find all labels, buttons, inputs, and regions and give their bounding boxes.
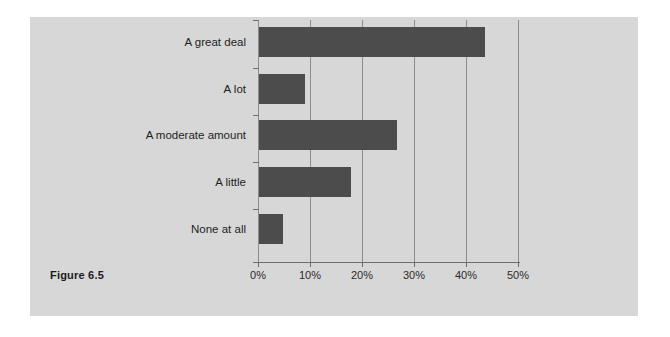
x-tick-label-0: 0%: [250, 269, 266, 281]
bar-a-lot: [259, 74, 305, 104]
screenshot-root: 0% 10% 20% 30% 40% 50% A great deal A lo…: [0, 0, 670, 337]
category-label-text: A moderate amount: [146, 129, 246, 141]
category-label-text: None at all: [191, 223, 246, 235]
x-tick-mark-40: [466, 262, 467, 267]
gridline-50: [518, 20, 519, 262]
x-tick-label-50: 50%: [507, 269, 529, 281]
x-tick-mark-10: [310, 262, 311, 267]
figure-panel: 0% 10% 20% 30% 40% 50% A great deal A lo…: [30, 17, 638, 316]
y-tick-2: [253, 115, 259, 116]
category-label-text: A lot: [224, 83, 246, 95]
bar-a-little: [259, 167, 351, 197]
y-tick-1: [253, 68, 259, 69]
x-tick-mark-50: [518, 262, 519, 267]
x-tick-mark-20: [362, 262, 363, 267]
x-tick-label-40: 40%: [455, 269, 477, 281]
bar-chart: 0% 10% 20% 30% 40% 50% A great deal A lo…: [30, 17, 638, 277]
bar-none-at-all: [259, 214, 283, 244]
category-label-text: A great deal: [185, 36, 246, 48]
plot-area: [258, 20, 518, 262]
x-tick-mark-0: [258, 262, 259, 267]
category-label-none-at-all: None at all: [40, 214, 252, 244]
y-tick-4: [253, 209, 259, 210]
x-tick-label-20: 20%: [351, 269, 373, 281]
x-tick-label-10: 10%: [299, 269, 321, 281]
x-axis-line: [258, 262, 520, 263]
category-label-a-little: A little: [40, 167, 252, 197]
category-label-text: A little: [215, 176, 246, 188]
x-tick-mark-30: [414, 262, 415, 267]
figure-caption: Figure 6.5: [50, 269, 104, 281]
category-label-a-great-deal: A great deal: [40, 27, 252, 57]
x-tick-label-30: 30%: [403, 269, 425, 281]
bar-a-moderate-amount: [259, 120, 397, 150]
category-label-a-moderate-amount: A moderate amount: [40, 120, 252, 150]
category-label-a-lot: A lot: [40, 74, 252, 104]
y-tick-3: [253, 162, 259, 163]
bar-a-great-deal: [259, 27, 485, 57]
y-tick-0: [253, 20, 259, 21]
